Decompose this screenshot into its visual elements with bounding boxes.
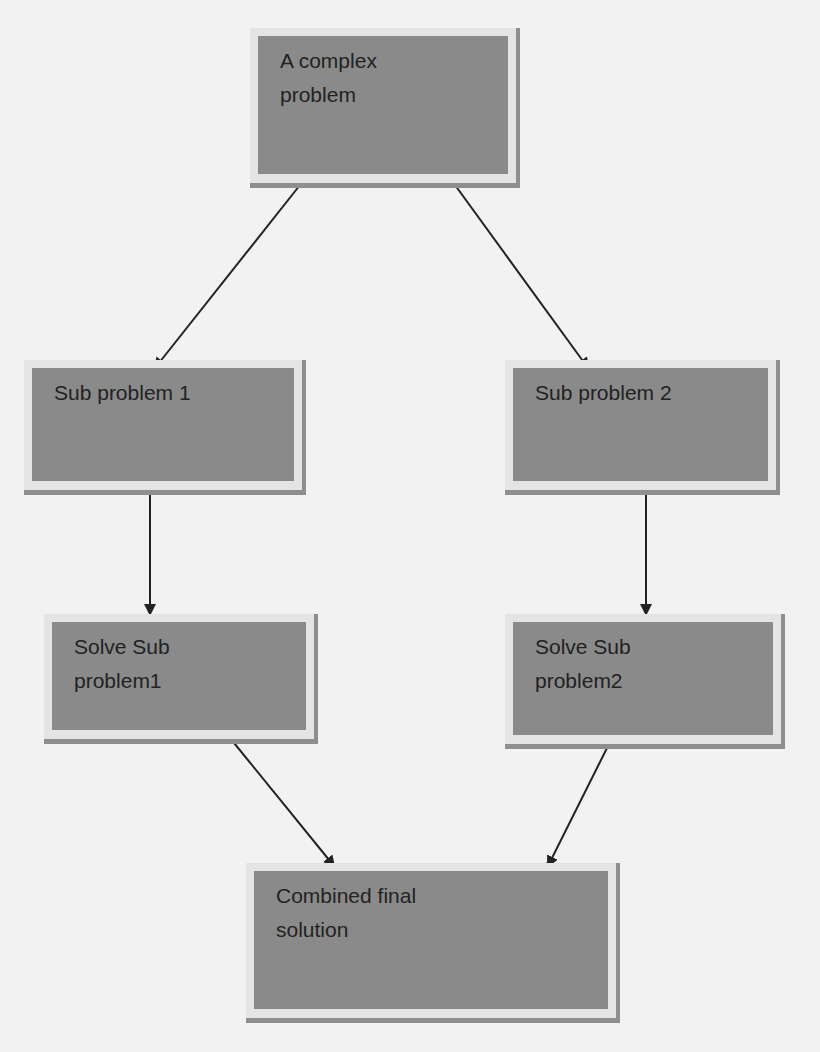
node-sub-problem-2: Sub problem 2 [505, 360, 780, 495]
node-label: Solve Sub problem2 [535, 630, 769, 698]
node-combined-final-solution: Combined final solution [246, 863, 620, 1023]
node-solve-sub-problem-2: Solve Sub problem2 [505, 614, 785, 749]
edge-complex-to-sub1 [155, 185, 300, 368]
node-label: Solve Sub problem1 [74, 630, 302, 698]
node-label: Sub problem 1 [54, 376, 290, 410]
node-label: A complex problem [280, 44, 504, 112]
node-sub-problem-1: Sub problem 1 [24, 360, 306, 495]
node-solve-sub-problem-1: Solve Sub problem1 [44, 614, 318, 744]
node-label: Sub problem 2 [535, 376, 764, 410]
edge-complex-to-sub2 [455, 185, 588, 368]
edge-solve2-to-final [548, 738, 612, 866]
edge-solve1-to-final [230, 738, 334, 866]
node-complex-problem: A complex problem [250, 28, 520, 188]
node-label: Combined final solution [276, 879, 604, 947]
